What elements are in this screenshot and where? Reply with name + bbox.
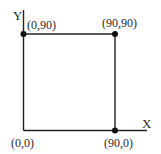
point-label-90-0: (90,0) xyxy=(104,136,133,150)
point-label-0-90: (0,90) xyxy=(27,18,56,32)
point-label-90-90: (90,90) xyxy=(102,16,137,30)
point-marker-90-90 xyxy=(112,31,118,37)
point-marker-90-0 xyxy=(112,128,118,134)
x-axis-label: X xyxy=(142,116,152,131)
y-axis-label: Y xyxy=(13,8,23,23)
coordinate-square-diagram: Y X (0,0) (0,90) (90,90) (90,0) xyxy=(0,0,161,154)
point-marker-0-90 xyxy=(21,31,27,37)
point-label-0-0: (0,0) xyxy=(11,136,34,150)
